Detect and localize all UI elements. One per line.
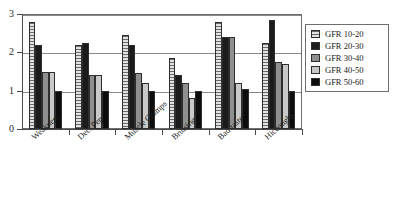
legend-swatch-icon (311, 54, 320, 62)
bar (269, 20, 276, 129)
bar (215, 22, 222, 129)
bar (82, 43, 89, 129)
bar (102, 91, 109, 129)
legend-swatch-icon (311, 78, 320, 86)
y-axis-tick-label: 1 (0, 86, 14, 96)
x-axis-tick (255, 130, 256, 135)
bar (129, 45, 136, 129)
legend-swatch-icon (311, 30, 320, 38)
legend-item-label: GFR 10-20 (325, 30, 364, 39)
y-axis-tick-label: 3 (0, 9, 14, 19)
x-axis-tick (69, 130, 70, 135)
y-axis-line (22, 14, 23, 130)
y-axis-tick (17, 52, 23, 53)
bar (222, 37, 229, 129)
bar (229, 37, 236, 129)
x-axis-tick (115, 130, 116, 135)
bar (75, 45, 82, 129)
legend-item-label: GFR 30-40 (325, 54, 364, 63)
gridline-y-3 (23, 15, 301, 16)
y-axis-tick (17, 91, 23, 92)
bar (262, 43, 269, 129)
y-axis-tick-label: 0 (0, 124, 14, 134)
legend-swatch-icon (311, 42, 320, 50)
y-axis-tick (17, 14, 23, 15)
legend-item: GFR 30-40 (309, 52, 385, 64)
gridline-y-1 (23, 92, 301, 93)
legend-item: GFR 20-30 (309, 40, 385, 52)
x-axis-tick (162, 130, 163, 135)
bar (169, 58, 176, 129)
bar (122, 35, 129, 129)
x-axis-tick (209, 130, 210, 135)
legend: GFR 10-20GFR 20-30GFR 30-40GFR 40-50GFR … (305, 24, 389, 92)
legend-item-label: GFR 40-50 (325, 66, 364, 75)
legend-item: GFR 10-20 (309, 28, 385, 40)
legend-item: GFR 40-50 (309, 64, 385, 76)
bar (35, 45, 42, 129)
legend-item-label: GFR 20-30 (325, 42, 364, 51)
legend-item: GFR 50-60 (309, 76, 385, 88)
gridline-y-2 (23, 53, 301, 54)
y-axis-tick-label: 2 (0, 47, 14, 57)
bar (175, 75, 182, 129)
bar (29, 22, 36, 129)
legend-item-label: GFR 50-60 (325, 78, 364, 87)
bar-chart: 0123 WeaknessDec. PepMuscle CrampsBruisi… (0, 0, 393, 203)
legend-swatch-icon (311, 66, 320, 74)
x-axis-tick (302, 130, 303, 135)
bar (242, 89, 249, 129)
